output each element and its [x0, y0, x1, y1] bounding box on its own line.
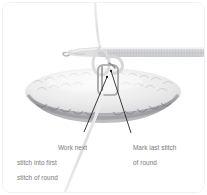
- callout-left-line-3: stitch of round: [17, 174, 58, 181]
- callout-work-next-stitch: Work next stitch into first stitch of ro…: [17, 137, 89, 181]
- callout-left-line-1: Work next: [17, 144, 89, 151]
- crochet-hook: [63, 47, 204, 57]
- leader-dot-left: [106, 76, 108, 78]
- leader-dot-right: [110, 70, 112, 72]
- callout-mark-last-stitch: Mark last stitch of round: [133, 137, 203, 167]
- callout-right-line-1: Mark last stitch: [133, 144, 176, 151]
- callout-left-line-2: stitch into first: [17, 159, 57, 166]
- figure-root: Work next stitch into first stitch of ro…: [0, 0, 207, 195]
- photograph: Work next stitch into first stitch of ro…: [3, 3, 204, 192]
- callout-right-line-2: of round: [133, 159, 157, 166]
